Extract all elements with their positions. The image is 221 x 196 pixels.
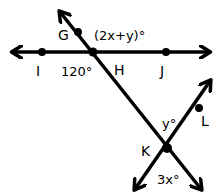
angle-label-120: 120°: [61, 64, 92, 79]
label-l: L: [201, 113, 209, 129]
label-h: H: [114, 62, 125, 78]
label-g: G: [58, 27, 69, 43]
point-k: [162, 143, 172, 153]
angle-label-2x-plus-y: (2x+y)°: [94, 28, 145, 43]
point-l: [195, 104, 203, 112]
point-h: [89, 48, 98, 57]
point-j: [162, 48, 170, 56]
label-k: K: [141, 143, 151, 159]
label-j: J: [159, 63, 164, 79]
angle-label-y: y°: [162, 116, 176, 131]
point-i: [38, 48, 46, 56]
angle-label-3x: 3x°: [157, 172, 179, 187]
label-i: I: [36, 63, 40, 79]
point-g: [74, 28, 82, 36]
geometry-diagram: G H I J K L (2x+y)° 120° y° 3x°: [0, 0, 221, 196]
